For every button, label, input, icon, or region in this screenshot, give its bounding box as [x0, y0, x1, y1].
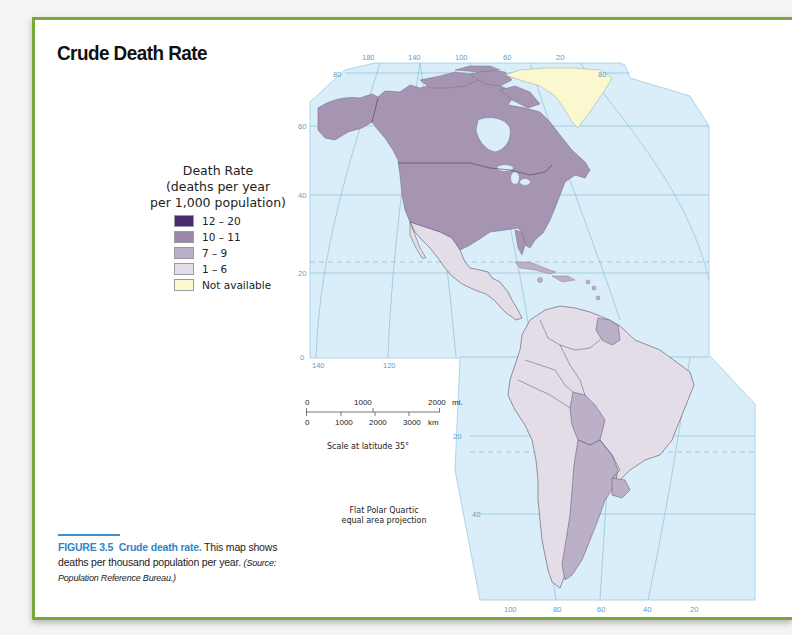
scale-km-0: 0: [305, 418, 309, 427]
legend-label: 7 – 9: [202, 247, 227, 259]
legend-label: 10 – 11: [202, 231, 241, 243]
figure-number: FIGURE 3.5: [58, 541, 113, 553]
legend-swatch: [174, 279, 194, 291]
legend-label: Not available: [202, 279, 271, 291]
tick-lat-60: 60: [298, 122, 306, 131]
tick-lat-0: 0: [300, 353, 304, 362]
scale-line: [306, 408, 446, 418]
tick-lat-80-right: 80: [598, 70, 606, 79]
tick-lat-40-south: 40: [472, 510, 480, 519]
legend-swatch: [174, 263, 194, 275]
scale-mi-unit: mi.: [452, 398, 463, 407]
projection-note: Flat Polar Quartic equal area projection: [324, 506, 444, 526]
tick-lon-100-bottom: 100: [504, 605, 517, 614]
legend-title: Death Rate (deaths per year per 1,000 po…: [148, 163, 288, 211]
legend-item-10-11: 10 – 11: [174, 229, 288, 245]
tick-lat-20: 20: [298, 269, 306, 278]
legend-item-1-6: 1 – 6: [174, 261, 288, 277]
legend-item-7-9: 7 – 9: [174, 245, 288, 261]
legend-item-12-20: 12 – 20: [174, 213, 288, 229]
tick-lon-140-mid: 140: [312, 361, 325, 370]
tick-lon-20: 20: [556, 53, 564, 62]
scale-km-2000: 2000: [369, 418, 387, 427]
tick-lon-140: 140: [408, 53, 421, 62]
legend-swatch: [174, 215, 194, 227]
legend-title-line: Death Rate: [148, 163, 288, 179]
tick-lon-60: 60: [503, 53, 511, 62]
legend-label: 1 – 6: [202, 263, 227, 275]
scale-km-3000: 3000: [403, 418, 421, 427]
tick-lon-100: 100: [455, 53, 468, 62]
tick-lon-40-bottom: 40: [643, 605, 651, 614]
scale-mi-1000: 1000: [354, 398, 372, 407]
scale-km-unit: km: [428, 418, 439, 427]
figure-caption: FIGURE 3.5 Crude death rate. This map sh…: [58, 540, 288, 586]
tick-lon-180: 180: [362, 53, 375, 62]
legend-item-not-available: Not available: [174, 277, 288, 293]
projection-line-2: equal area projection: [324, 516, 444, 526]
tick-lon-80-bottom: 80: [553, 605, 561, 614]
legend-swatch: [174, 231, 194, 243]
tick-lat-80-left: 80: [333, 70, 341, 79]
scale-km-1000: 1000: [335, 418, 353, 427]
scale-mi-2000: 2000: [428, 398, 446, 407]
tick-lat-40: 40: [298, 191, 306, 200]
legend-label: 12 – 20: [202, 215, 241, 227]
tick-lat-20-south: 20: [453, 432, 461, 441]
projection-line-1: Flat Polar Quartic: [324, 506, 444, 516]
tick-lon-60-bottom: 60: [597, 605, 605, 614]
legend-title-line: (deaths per year: [148, 179, 288, 195]
legend-title-line: per 1,000 population): [148, 195, 288, 211]
figure-title: Crude death rate.: [119, 541, 202, 553]
legend-swatch: [174, 247, 194, 259]
caption-rule: [58, 534, 120, 536]
legend: Death Rate (deaths per year per 1,000 po…: [148, 163, 288, 293]
tick-lon-20-bottom: 20: [690, 605, 698, 614]
scale-caption: Scale at latitude 35°: [327, 442, 409, 451]
tick-lon-120-mid: 120: [383, 361, 396, 370]
scale-mi-0: 0: [305, 398, 309, 407]
